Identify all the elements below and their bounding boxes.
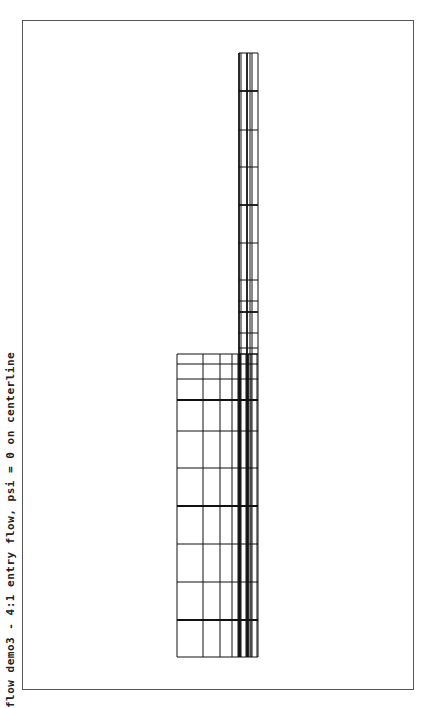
finite-element-mesh — [0, 0, 428, 708]
